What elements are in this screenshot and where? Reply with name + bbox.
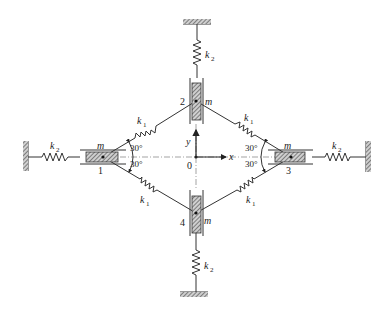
angle-label-3-upper: 30° bbox=[245, 143, 258, 153]
ground-right bbox=[366, 141, 371, 172]
svg-text:2: 2 bbox=[211, 55, 215, 63]
svg-text:1: 1 bbox=[252, 200, 256, 208]
diagram-canvas: 2 m 4 m m 1 m 3 k 2 k 2 k 2 k 2 k 1 k 1 … bbox=[0, 0, 389, 309]
ground-bottom bbox=[180, 292, 208, 297]
label-k1-lower-left: k 1 bbox=[140, 194, 150, 208]
svg-text:k: k bbox=[205, 49, 210, 60]
mass-3 bbox=[275, 152, 305, 162]
origin-dot bbox=[194, 155, 197, 158]
mass-4-number: 4 bbox=[180, 217, 185, 228]
spring-k2-left bbox=[28, 153, 80, 161]
svg-text:1: 1 bbox=[143, 121, 147, 129]
label-k2-left: k 2 bbox=[50, 140, 60, 154]
spring-k2-right bbox=[312, 153, 366, 161]
spring-k1-1-2 bbox=[103, 101, 196, 157]
spring-k1-1-4 bbox=[103, 157, 196, 213]
ground-left bbox=[23, 141, 28, 171]
mass-3-number: 3 bbox=[286, 165, 291, 176]
spring-k1-2-3 bbox=[196, 101, 291, 157]
mass-2-label: m bbox=[205, 96, 212, 107]
svg-text:2: 2 bbox=[56, 146, 60, 154]
label-k1-upper-left: k 1 bbox=[137, 115, 147, 129]
mass-2-number: 2 bbox=[180, 96, 185, 107]
svg-text:k: k bbox=[50, 140, 55, 151]
svg-text:k: k bbox=[204, 260, 209, 271]
label-k2-top: k 2 bbox=[205, 49, 215, 63]
mass-4-label: m bbox=[204, 215, 211, 226]
svg-text:k: k bbox=[332, 140, 337, 151]
mass-2 bbox=[192, 83, 201, 120]
axis-x-label: x bbox=[228, 151, 234, 162]
origin-label: 0 bbox=[187, 160, 192, 171]
label-k1-lower-right: k 1 bbox=[246, 194, 256, 208]
mass-3-label: m bbox=[284, 140, 291, 151]
svg-text:k: k bbox=[137, 115, 142, 126]
spring-k2-bottom bbox=[192, 233, 200, 292]
mass-1 bbox=[86, 152, 118, 162]
label-k2-bottom: k 2 bbox=[204, 260, 214, 274]
spring-k2-top bbox=[193, 24, 201, 78]
axis-y-label: y bbox=[185, 136, 191, 147]
svg-text:k: k bbox=[246, 194, 251, 205]
angle-label-1-upper: 30° bbox=[130, 143, 143, 153]
mass-1-number: 1 bbox=[98, 165, 103, 176]
ground-top bbox=[183, 19, 211, 24]
svg-text:2: 2 bbox=[210, 266, 214, 274]
spring-k1-3-4 bbox=[196, 157, 291, 213]
mass-4 bbox=[192, 196, 201, 233]
label-k2-right: k 2 bbox=[332, 140, 342, 154]
mass-1-label: m bbox=[97, 140, 104, 151]
angle-label-1-lower: 30° bbox=[130, 159, 143, 169]
svg-text:1: 1 bbox=[250, 118, 254, 126]
svg-text:k: k bbox=[140, 194, 145, 205]
svg-text:k: k bbox=[244, 112, 249, 123]
svg-text:1: 1 bbox=[146, 200, 150, 208]
svg-text:2: 2 bbox=[338, 146, 342, 154]
angle-label-3-lower: 30° bbox=[245, 159, 258, 169]
label-k1-upper-right: k 1 bbox=[244, 112, 254, 126]
